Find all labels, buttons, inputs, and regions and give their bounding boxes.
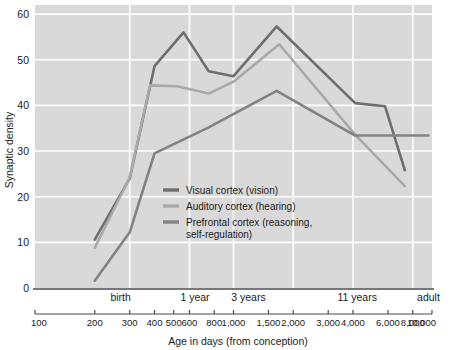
y-tick-label: 20 [17, 191, 29, 203]
x-tick-label: 100 [31, 317, 47, 328]
y-tick-label: 50 [17, 54, 29, 66]
age-marker-label: 3 years [231, 291, 265, 303]
age-marker-label: adult [417, 291, 440, 303]
x-tick-label: 800 [206, 317, 222, 328]
x-axis-title: Age in days (from conception) [168, 335, 307, 347]
x-tick-label: 500 [166, 317, 182, 328]
x-tick-label: 600 [182, 317, 198, 328]
y-tick-label: 60 [17, 8, 29, 20]
x-tick-label: 400 [147, 317, 163, 328]
chart-container: 0102030405060 birth1 year3 years11 years… [0, 0, 454, 350]
y-tick-label: 30 [17, 145, 29, 157]
legend-label-continuation: self-regulation) [186, 229, 252, 240]
synaptic-density-line-chart: 0102030405060 birth1 year3 years11 years… [0, 0, 454, 350]
x-axis-tick-labels: 1002003004005006008001,0001,5002,0003,00… [31, 317, 436, 328]
x-tick-label: 10,000 [407, 317, 436, 328]
y-tick-label: 0 [23, 282, 29, 294]
age-marker-label: 11 years [337, 291, 377, 303]
x-tick-label: 4,000 [341, 317, 365, 328]
legend-label: Auditory cortex (hearing) [186, 201, 296, 212]
x-tick-label: 1,500 [257, 317, 281, 328]
y-tick-label: 10 [17, 236, 29, 248]
x-tick-label: 2,000 [281, 317, 305, 328]
x-tick-label: 6,000 [376, 317, 400, 328]
x-tick-label: 200 [87, 317, 103, 328]
x-tick-label: 1,000 [222, 317, 246, 328]
x-tick-label: 300 [122, 317, 138, 328]
y-axis-title: Synaptic density [3, 111, 15, 188]
x-tick-label: 3,000 [316, 317, 340, 328]
age-marker-label: birth [110, 291, 131, 303]
age-marker-label: 1 year [180, 291, 210, 303]
legend-label: Prefrontal cortex (reasoning, [186, 217, 312, 228]
y-tick-label: 40 [17, 99, 29, 111]
legend-label: Visual cortex (vision) [186, 185, 278, 196]
